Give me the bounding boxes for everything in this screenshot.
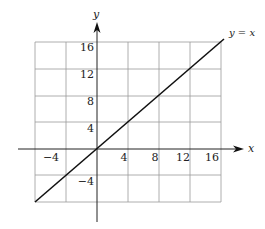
x-axis-label: x xyxy=(248,142,255,155)
x-tick-label: 16 xyxy=(205,151,219,164)
y-tick-label: 8 xyxy=(87,95,94,108)
x-tick-label: −4 xyxy=(43,151,59,164)
graph-figure: x y y = x −4 4 8 12 16 16 12 8 4 −4 xyxy=(0,0,265,229)
y-tick-label: 16 xyxy=(80,41,94,54)
x-tick-label: 8 xyxy=(152,151,159,164)
x-tick-label: 12 xyxy=(176,151,190,164)
y-tick-label: 4 xyxy=(87,122,94,135)
y-axis-label: y xyxy=(92,8,100,21)
x-tick-label: 4 xyxy=(121,151,128,164)
line-label: y = x xyxy=(228,27,255,38)
y-tick-label: 12 xyxy=(80,68,94,81)
y-tick-label: −4 xyxy=(78,175,94,188)
line-y-equals-x xyxy=(35,39,224,202)
plot-svg: x y y = x −4 4 8 12 16 16 12 8 4 −4 xyxy=(0,0,265,229)
